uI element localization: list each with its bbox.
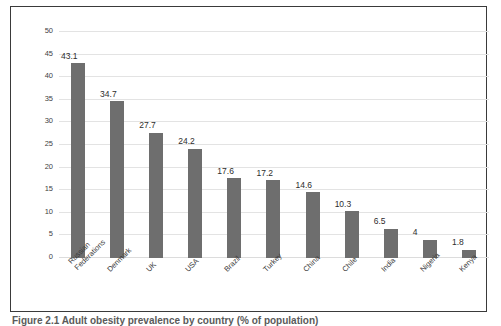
figure-caption: Figure 2.1 Adult obesity prevalence by c… xyxy=(12,315,482,326)
bar-value-label: 1.8 xyxy=(452,238,464,247)
bar-group: 17.2 xyxy=(254,32,293,258)
x-axis-category-label: Denmark xyxy=(106,260,145,278)
bar-group: 34.7 xyxy=(98,32,137,258)
bar xyxy=(384,229,398,258)
x-axis-category-label: Nigeria xyxy=(419,260,458,278)
y-axis-tick-label: 20 xyxy=(45,163,53,171)
bar-group: 24.2 xyxy=(176,32,215,258)
bar-value-label: 43.1 xyxy=(61,52,78,61)
bar-value-label: 17.2 xyxy=(256,169,273,178)
bar xyxy=(110,101,124,258)
bar xyxy=(306,192,320,258)
bar xyxy=(266,180,280,258)
bar-value-label: 14.6 xyxy=(296,181,313,190)
y-axis-tick-label: 45 xyxy=(45,50,53,58)
bar xyxy=(188,149,202,258)
x-axis-category-label: Brazil xyxy=(223,260,262,278)
x-axis-category-label: Chile xyxy=(341,260,380,278)
y-axis-tick-label: 35 xyxy=(45,95,53,103)
y-axis-tick-label: 15 xyxy=(45,185,53,193)
bar-value-label: 34.7 xyxy=(100,90,117,99)
x-axis-category-label: Turkey xyxy=(262,260,301,278)
y-axis-tick-label: 25 xyxy=(45,140,53,148)
bar-group: 10.3 xyxy=(333,32,372,258)
bar-value-label: 27.7 xyxy=(139,121,156,130)
x-axis-category-label: USA xyxy=(184,260,223,278)
x-axis-category-text: USA xyxy=(184,257,201,274)
bar-value-label: 10.3 xyxy=(335,200,352,209)
chart-frame: 05101520253035404550 43.134.727.724.217.… xyxy=(10,6,487,312)
bar xyxy=(345,211,359,258)
y-axis-tick-label: 10 xyxy=(45,208,53,216)
y-axis-tick-label: 30 xyxy=(45,118,53,126)
bar xyxy=(227,178,241,258)
bar-group: 27.7 xyxy=(137,32,176,258)
bar-group: 4 xyxy=(411,32,450,258)
x-axis-category-text: UK xyxy=(145,261,158,274)
bar-value-label: 4 xyxy=(413,228,418,237)
x-axis-category-text: Chile xyxy=(341,256,359,274)
y-axis-tick-label: 50 xyxy=(45,27,53,35)
bar xyxy=(71,63,85,258)
bar-group: 6.5 xyxy=(372,32,411,258)
plot-area: 05101520253035404550 43.134.727.724.217.… xyxy=(59,32,489,258)
x-axis-labels-group: Russian FederationsDenmarkUKUSABrazilTur… xyxy=(59,260,489,315)
x-axis-category-label: UK xyxy=(145,260,184,278)
y-axis-tick-label: 5 xyxy=(49,231,53,239)
y-axis-tick-label: 0 xyxy=(49,253,53,261)
bars-group: 43.134.727.724.217.617.214.610.36.541.8 xyxy=(59,32,489,258)
y-axis-tick-label: 40 xyxy=(45,72,53,80)
bar-value-label: 24.2 xyxy=(178,137,195,146)
bar-value-label: 6.5 xyxy=(374,217,386,226)
bar-group: 43.1 xyxy=(59,32,98,258)
bar xyxy=(149,133,163,258)
bar-value-label: 17.6 xyxy=(217,167,234,176)
bar-group: 14.6 xyxy=(294,32,333,258)
x-axis-category-text: India xyxy=(380,256,398,274)
x-axis-category-label: India xyxy=(380,260,419,278)
bar-group: 17.6 xyxy=(215,32,254,258)
bar-group: 1.8 xyxy=(450,32,489,258)
x-axis-category-label: China xyxy=(302,260,341,278)
x-axis-category-label: Kenya xyxy=(458,260,497,278)
x-axis-category-label: Russian Federations xyxy=(67,260,106,279)
